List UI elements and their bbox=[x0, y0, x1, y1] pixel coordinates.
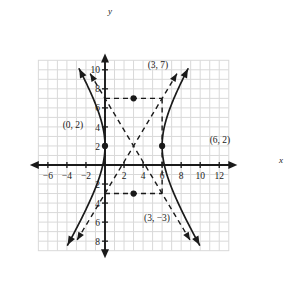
y-tick-label: 10 bbox=[91, 65, 101, 75]
x-axis-label: x bbox=[278, 155, 283, 165]
y-tick-label: 2 bbox=[95, 180, 100, 190]
x-tick-label: 10 bbox=[195, 171, 205, 181]
point-label-3-7: (3, 7) bbox=[148, 60, 169, 71]
x-tick-label: 6 bbox=[160, 171, 165, 181]
y-tick-label: 6 bbox=[95, 103, 100, 113]
x-tick-label: 4 bbox=[141, 171, 146, 181]
y-tick-label: 8 bbox=[95, 237, 100, 247]
graph-figure: −6−4−2246810121086422468 x y (3, 7) (0, … bbox=[0, 0, 303, 296]
plotted-point bbox=[130, 190, 136, 196]
plotted-point bbox=[102, 143, 108, 149]
y-tick-label: 4 bbox=[95, 123, 100, 133]
plotted-point bbox=[130, 95, 136, 101]
y-tick-label: 4 bbox=[95, 199, 100, 209]
x-tick-label: 2 bbox=[122, 171, 127, 181]
y-axis-label: y bbox=[107, 6, 112, 16]
y-tick-label: 6 bbox=[95, 218, 100, 228]
x-tick-label: 8 bbox=[179, 171, 184, 181]
plotted-point bbox=[159, 143, 165, 149]
grid-lines bbox=[38, 60, 228, 250]
point-label-6-2: (6, 2) bbox=[210, 135, 231, 146]
x-tick-label: −2 bbox=[81, 171, 91, 181]
point-label-3-neg3: (3, −3) bbox=[144, 213, 170, 224]
coordinate-plane-svg: −6−4−2246810121086422468 x y (3, 7) (0, … bbox=[0, 0, 303, 296]
x-tick-label: 12 bbox=[214, 171, 224, 181]
x-tick-label: −6 bbox=[43, 171, 53, 181]
y-tick-label: 2 bbox=[95, 142, 100, 152]
y-tick-label: 8 bbox=[95, 84, 100, 94]
point-label-0-2: (0, 2) bbox=[63, 120, 84, 131]
x-tick-label: −4 bbox=[62, 171, 72, 181]
